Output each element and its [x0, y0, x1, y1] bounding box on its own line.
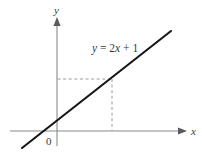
- coordinate-plane-svg: y x 0 y = 2x + 1: [0, 0, 202, 165]
- y-axis-arrowhead: [53, 17, 60, 26]
- x-axis-arrowhead: [178, 127, 187, 134]
- equation-operator: = 2: [97, 42, 115, 54]
- equation-label: y = 2x + 1: [91, 42, 138, 55]
- equation-constant: + 1: [120, 42, 138, 54]
- x-axis-label: x: [190, 125, 196, 137]
- graph-figure: y x 0 y = 2x + 1: [0, 0, 202, 165]
- origin-label: 0: [46, 135, 52, 147]
- y-axis-label: y: [53, 4, 59, 16]
